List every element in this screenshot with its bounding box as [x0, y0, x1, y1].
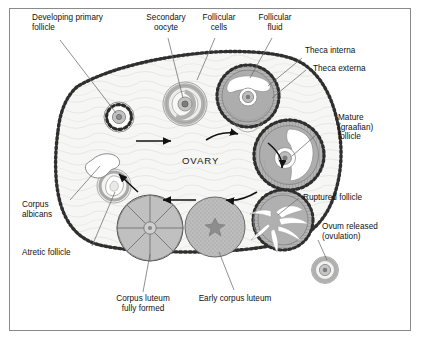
- corpus-luteum-fully-formed-structure: [117, 195, 183, 261]
- label-corpus-albicans: Corpus albicans: [22, 200, 52, 219]
- label-follicular-fluid: Follicular fluid: [246, 13, 304, 32]
- secondary-oocyte-structure: [163, 82, 207, 126]
- leader-early-corpus-luteum: [219, 252, 234, 290]
- label-atretic-follicle: Atretic follicle: [22, 248, 71, 258]
- ovary-center-label: OVARY: [182, 155, 219, 166]
- developing-primary-follicle-structure: [104, 102, 134, 132]
- label-ovum-released: Ovum released (ovulation): [322, 222, 378, 241]
- figure-canvas: Developing primary follicle Secondary oo…: [0, 0, 423, 342]
- label-theca-externa: Theca externa: [313, 64, 366, 74]
- label-mature-graafian-follicle: Mature (graafian) follicle: [338, 113, 373, 142]
- label-early-corpus-luteum: Early corpus luteum: [185, 294, 285, 304]
- label-follicular-cells: Follicular cells: [190, 13, 248, 32]
- ovum-released-structure: [312, 257, 339, 284]
- label-developing-primary-follicle: Developing primary follicle: [32, 13, 103, 32]
- label-ruptured-follicle: Ruptured follicle: [303, 193, 362, 203]
- early-corpus-luteum-structure: [185, 197, 245, 257]
- label-theca-interna: Theca interna: [305, 46, 355, 56]
- ovary-diagram: [0, 0, 423, 342]
- label-corpus-luteum-fully-formed: Corpus luteum fully formed: [95, 294, 191, 313]
- mature-graafian-follicle-structure: [254, 120, 324, 190]
